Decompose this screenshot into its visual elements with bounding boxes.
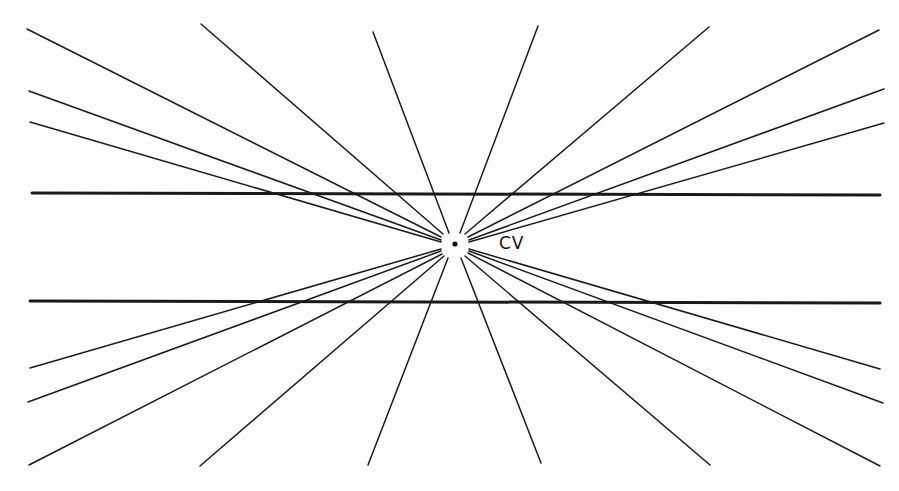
radial-line (27, 29, 441, 237)
radial-line (368, 258, 448, 465)
radial-line (29, 91, 441, 240)
radial-line (469, 251, 883, 403)
radial-line (461, 258, 541, 463)
perspective-diagram (0, 0, 899, 491)
radial-line (469, 89, 884, 240)
radial-line (469, 123, 884, 242)
radial-line (201, 24, 443, 234)
radial-line (28, 251, 441, 402)
horizontal-line (30, 301, 880, 303)
horizontal-line (32, 193, 880, 195)
center-of-vision-label: CV (499, 233, 525, 253)
radial-line (469, 249, 880, 369)
radial-line (30, 122, 441, 242)
horizontal-lines (30, 193, 880, 303)
center-of-vision-point (452, 241, 457, 246)
radial-line (460, 26, 538, 233)
radial-line (30, 249, 441, 368)
radial-line (468, 30, 879, 237)
radial-line (373, 32, 449, 233)
radial-line (465, 27, 709, 234)
